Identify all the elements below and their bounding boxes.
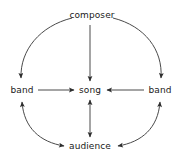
edge-composer-to-band-right [113, 18, 161, 78]
edge-band-left-audience [22, 102, 64, 146]
node-song: song [79, 85, 101, 96]
node-composer: composer [69, 10, 114, 21]
node-band-right: band [148, 85, 171, 96]
diagram-canvas: composer band song band audience [0, 0, 181, 163]
node-audience: audience [69, 141, 111, 152]
edge-composer-to-band-left [21, 18, 72, 78]
node-band-left: band [10, 85, 33, 96]
edge-band-right-audience [118, 102, 160, 146]
diagram-edges-layer [0, 0, 181, 163]
